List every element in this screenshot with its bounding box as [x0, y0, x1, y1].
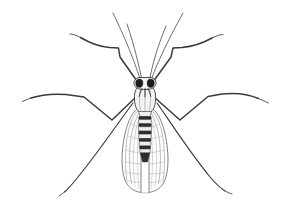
mosquito-illustration: [0, 0, 287, 215]
abdomen-segment-8: [139, 142, 151, 146]
left-compound-eye: [136, 79, 143, 87]
right-compound-eye: [147, 79, 154, 87]
abdomen-segment-5: [139, 131, 152, 134]
abdomen-segment-3: [139, 124, 152, 127]
abdomen-segment-7: [139, 139, 151, 142]
abdomen-segment-10: [140, 149, 150, 153]
abdomen-segment-1: [139, 117, 151, 120]
illustration-frame: [0, 0, 287, 215]
abdomen-segment-6: [139, 134, 151, 138]
abdomen-segment-2: [139, 120, 152, 124]
abdomen-segment-4: [138, 127, 151, 131]
abdomen-segment-9: [139, 146, 150, 149]
scutellum: [139, 112, 152, 117]
